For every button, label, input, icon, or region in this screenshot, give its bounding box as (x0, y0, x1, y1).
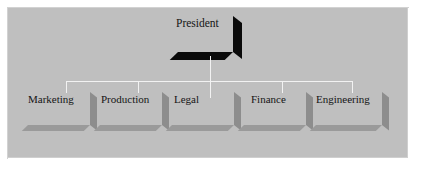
node-marketing-side-shadow (90, 92, 97, 130)
node-legal-label: Legal (174, 94, 199, 105)
node-marketing-bottom-shadow (22, 125, 90, 131)
node-finance-label: Finance (251, 94, 286, 105)
node-production-bottom-shadow (94, 125, 162, 131)
node-engineering-label: Engineering (316, 94, 370, 105)
node-finance-side-shadow (306, 92, 313, 130)
node-engineering-bottom-shadow (310, 125, 382, 131)
node-president-label: President (176, 18, 219, 30)
node-legal-side-shadow (234, 92, 241, 130)
connector-horizontal-bus (66, 81, 352, 82)
node-finance-bottom-shadow (238, 125, 306, 131)
node-president-side-shadow (233, 16, 242, 59)
node-production-label: Production (101, 94, 149, 105)
node-legal-bottom-shadow (166, 125, 234, 131)
node-marketing-label: Marketing (28, 94, 74, 105)
node-engineering-side-shadow (382, 92, 389, 130)
connector-president-stem (210, 56, 211, 81)
org-chart-diagram: President Marketing Production Legal Fin… (0, 0, 423, 172)
node-president-bottom-shadow (170, 52, 233, 60)
node-production-side-shadow (162, 92, 169, 130)
